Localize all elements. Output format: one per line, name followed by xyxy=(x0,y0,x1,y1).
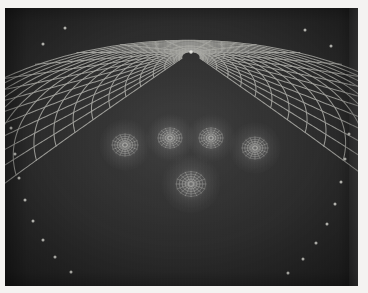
singular-point-glow xyxy=(228,121,281,174)
boundary-node-right xyxy=(315,242,318,245)
boundary-node-right xyxy=(326,223,329,226)
boundary-node-dot xyxy=(54,256,57,259)
boundary-node-right xyxy=(340,181,343,184)
figure-root xyxy=(0,0,368,293)
boundary-node-dot xyxy=(70,271,73,274)
boundary-node-right xyxy=(348,133,351,136)
boundary-node-dot xyxy=(334,203,337,206)
boundary-node-dot xyxy=(24,199,27,202)
boundary-node-left xyxy=(32,220,35,223)
boundary-node-right xyxy=(302,258,305,261)
boundary-node-left xyxy=(24,199,27,202)
singular-point-glow xyxy=(161,154,222,215)
boundary-node-left xyxy=(10,127,13,130)
singular-point xyxy=(98,118,151,171)
boundary-node-dot xyxy=(42,239,45,242)
boundary-node-dot xyxy=(315,242,318,245)
boundary-node-dot xyxy=(18,177,21,180)
boundary-node-left xyxy=(70,271,73,274)
singular-point-glow xyxy=(98,118,151,171)
boundary-node-right xyxy=(287,272,290,275)
boundary-node-dot xyxy=(330,45,333,48)
singular-point xyxy=(228,121,281,174)
boundary-node-left xyxy=(18,177,21,180)
boundary-node-dot xyxy=(304,29,307,32)
boundary-node-top xyxy=(304,29,307,32)
boundary-node-dot xyxy=(287,272,290,275)
boundary-node-left xyxy=(54,256,57,259)
boundary-node-dot xyxy=(344,158,347,161)
focus-node xyxy=(189,50,193,54)
boundary-node-dot xyxy=(64,27,67,30)
mesh-svg xyxy=(5,8,358,286)
boundary-node-left xyxy=(42,239,45,242)
singular-point xyxy=(161,154,222,215)
boundary-node-top xyxy=(330,45,333,48)
mesh-plot-panel xyxy=(5,8,358,286)
boundary-node-dot xyxy=(32,220,35,223)
boundary-node-dot xyxy=(10,127,13,130)
boundary-node-dot xyxy=(302,258,305,261)
boundary-node-top xyxy=(64,27,67,30)
boundary-node-dot xyxy=(340,181,343,184)
boundary-node-dot xyxy=(14,153,17,156)
boundary-node-right xyxy=(344,158,347,161)
boundary-node-left xyxy=(14,153,17,156)
boundary-node-top xyxy=(42,43,45,46)
boundary-node-dot xyxy=(348,133,351,136)
boundary-node-dot xyxy=(326,223,329,226)
boundary-node-right xyxy=(334,203,337,206)
boundary-node-dot xyxy=(42,43,45,46)
